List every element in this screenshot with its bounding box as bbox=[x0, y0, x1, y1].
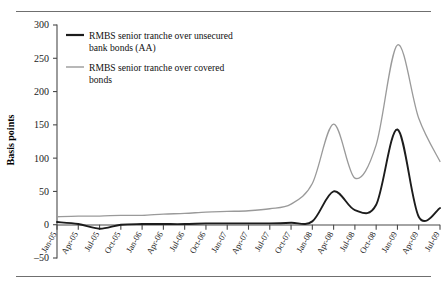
x-tick-label: Jul-09 bbox=[422, 230, 441, 253]
y-tick-label: 100 bbox=[34, 153, 49, 164]
x-tick-label: Jan-09 bbox=[379, 230, 399, 255]
x-axis-tick-labels: Jan-05Apr-05Jul-05Oct-05Jan-06Apr-06Jul-… bbox=[39, 230, 442, 256]
y-axis-title: Basis points bbox=[5, 114, 16, 165]
line-chart: –50050100150200250300 Jan-05Apr-05Jul-05… bbox=[0, 0, 447, 288]
y-tick-label: 300 bbox=[34, 19, 49, 30]
x-tick-label: Oct-08 bbox=[357, 230, 377, 255]
legend-entry-1-line1: RMBS senior tranche over covered bbox=[89, 62, 225, 73]
x-tick-label: Oct-07 bbox=[272, 230, 292, 255]
x-tick-label: Jul-07 bbox=[252, 230, 271, 253]
y-tick-label: 250 bbox=[34, 53, 49, 64]
x-tick-label: Apr-08 bbox=[314, 230, 335, 256]
legend-entry-1-line2: bonds bbox=[89, 74, 112, 85]
chart-legend: RMBS senior tranche over unsecured bank … bbox=[66, 30, 233, 86]
x-tick-label: Jan-08 bbox=[294, 230, 314, 255]
x-tick-label: Jul-05 bbox=[82, 230, 101, 253]
x-tick-label: Oct-06 bbox=[187, 230, 207, 255]
y-tick-label: 50 bbox=[39, 186, 49, 197]
x-tick-label: Oct-05 bbox=[102, 230, 122, 255]
x-tick-label: Jul-08 bbox=[337, 230, 356, 253]
y-tick-label: 200 bbox=[34, 86, 49, 97]
x-tick-label: Jul-06 bbox=[167, 230, 186, 253]
y-tick-label: 150 bbox=[34, 119, 49, 130]
legend-entry-0-line1: RMBS senior tranche over unsecured bbox=[89, 30, 233, 41]
x-tick-label: Apr-05 bbox=[59, 230, 80, 256]
x-tick-label: Apr-09 bbox=[400, 230, 421, 256]
x-tick-label: Jan-05 bbox=[39, 230, 59, 255]
y-axis-ticks bbox=[53, 25, 57, 258]
y-axis-tick-labels: –50050100150200250300 bbox=[33, 19, 49, 263]
y-tick-label: 0 bbox=[44, 219, 49, 230]
x-tick-label: Jan-07 bbox=[209, 230, 229, 255]
series-line-unsecured-bank-bonds bbox=[57, 129, 440, 228]
x-tick-label: Jan-06 bbox=[124, 230, 144, 255]
x-tick-label: Apr-06 bbox=[144, 230, 165, 256]
legend-entry-0-line2: bank bonds (AA) bbox=[89, 42, 156, 54]
x-tick-label: Apr-07 bbox=[229, 230, 250, 256]
